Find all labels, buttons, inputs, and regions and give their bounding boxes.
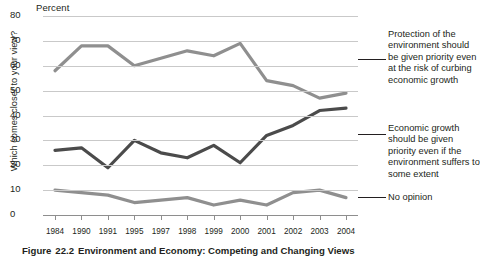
y-tick-label: 50 xyxy=(10,84,36,95)
x-tick-mark xyxy=(346,216,347,220)
gridline xyxy=(43,16,358,17)
x-axis-ticks: 1984199019911995199719981999200020012002… xyxy=(43,216,358,242)
x-tick-label: 1998 xyxy=(178,227,196,236)
x-tick-mark xyxy=(81,216,82,220)
x-tick-label: 2000 xyxy=(231,227,249,236)
data-series-line xyxy=(55,190,346,205)
leader-line-economy xyxy=(358,134,386,135)
y-tick-label: 70 xyxy=(10,34,36,45)
x-tick-label: 2003 xyxy=(310,227,328,236)
gridline xyxy=(43,116,358,117)
y-tick-label: 40 xyxy=(10,109,36,120)
caption-number: 22.2 xyxy=(55,245,74,256)
data-series-line xyxy=(55,108,346,168)
x-tick-mark xyxy=(267,216,268,220)
y-tick-label: 80 xyxy=(10,9,36,20)
gridline xyxy=(43,91,358,92)
gridline xyxy=(43,41,358,42)
percent-axis-label: Percent xyxy=(36,2,69,13)
legend-label-economy: Economic growth should be given priority… xyxy=(388,123,480,180)
x-tick-mark xyxy=(134,216,135,220)
x-tick-mark xyxy=(187,216,188,220)
x-tick-mark xyxy=(55,216,56,220)
y-tick-label: 30 xyxy=(10,133,36,144)
x-tick-label: 1995 xyxy=(125,227,143,236)
x-tick-label: 1991 xyxy=(99,227,117,236)
x-tick-mark xyxy=(161,216,162,220)
leader-line-environment xyxy=(358,59,386,60)
x-tick-mark xyxy=(240,216,241,220)
y-tick-label: 10 xyxy=(10,183,36,194)
legend-label-environment: Protection of the environment should be … xyxy=(388,29,480,86)
x-tick-label: 2002 xyxy=(284,227,302,236)
y-axis-title: Which comes closer to your view? xyxy=(9,21,19,181)
x-tick-mark xyxy=(108,216,109,220)
figure-container: Percent Which comes closer to your view?… xyxy=(0,0,480,256)
x-tick-label: 1990 xyxy=(72,227,90,236)
caption-text: Environment and Economy: Competing and C… xyxy=(78,245,354,256)
x-tick-mark xyxy=(293,216,294,220)
gridline xyxy=(43,190,358,191)
x-tick-label: 2001 xyxy=(258,227,276,236)
gridline xyxy=(43,140,358,141)
x-tick-mark xyxy=(214,216,215,220)
figure-caption: Figure22.2Environment and Economy: Compe… xyxy=(22,245,354,256)
caption-prefix: Figure xyxy=(22,245,51,256)
y-tick-label: 0 xyxy=(10,208,36,219)
x-tick-label: 2004 xyxy=(337,227,355,236)
leader-line-no-opinion xyxy=(358,197,386,198)
x-tick-mark xyxy=(320,216,321,220)
gridline xyxy=(43,66,358,67)
plot-area: 01020304050607080 xyxy=(43,16,358,215)
x-tick-label: 1984 xyxy=(46,227,64,236)
y-tick-label: 60 xyxy=(10,59,36,70)
x-tick-label: 1997 xyxy=(152,227,170,236)
gridline xyxy=(43,165,358,166)
x-tick-label: 1999 xyxy=(205,227,223,236)
legend-label-no-opinion: No opinion xyxy=(388,192,480,203)
y-tick-label: 20 xyxy=(10,158,36,169)
